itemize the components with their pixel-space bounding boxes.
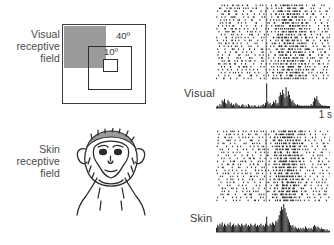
visual-field-outer-square xyxy=(62,24,146,104)
visual-response-panel: Visual xyxy=(180,2,332,122)
skin-response-panel: Skin xyxy=(180,126,332,244)
figure-root: Visual receptive field 40º 10º Skin rece… xyxy=(0,0,334,245)
visual-field-diagram: 40º 10º xyxy=(62,24,148,106)
scalebar-line xyxy=(270,106,330,108)
skin-psth-histogram xyxy=(216,202,330,234)
visual-field-40-degree-label: 40º xyxy=(116,30,130,41)
monkey-left-eye xyxy=(99,149,107,156)
time-scalebar: 1 s xyxy=(270,106,332,124)
visual-panel-label: Visual xyxy=(184,87,215,99)
visual-plot-area xyxy=(216,4,330,110)
skin-plot-area xyxy=(216,130,330,234)
scalebar-label: 1 s xyxy=(319,109,332,120)
monkey-head-illustration xyxy=(70,128,152,216)
visual-receptive-field-label: Visual receptive field xyxy=(2,28,60,65)
visual-field-10-degree-label: 10º xyxy=(104,46,118,57)
monkey-scalp-shaded-region xyxy=(87,131,135,147)
skin-panel-label: Skin xyxy=(190,212,212,224)
skin-raster-plot xyxy=(216,130,330,202)
monkey-right-eye xyxy=(114,149,122,156)
visual-raster-plot xyxy=(216,4,330,80)
skin-receptive-field-label: Skin receptive field xyxy=(2,143,60,180)
visual-field-inner-square xyxy=(103,59,118,72)
